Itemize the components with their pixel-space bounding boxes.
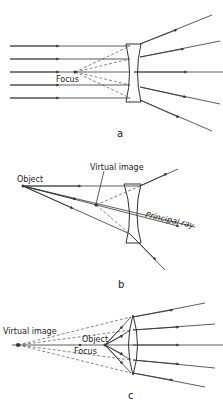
caption-a: a xyxy=(117,128,123,139)
focus-point xyxy=(79,344,81,346)
virtual-image-point xyxy=(16,343,20,347)
panel-b: Object Virtual image Principal ray b xyxy=(17,163,195,290)
panel-a: Focus a xyxy=(10,15,223,139)
virtual-image-label: Virtual image xyxy=(3,327,57,336)
panel-c: Virtual image Object Focus c xyxy=(3,303,223,401)
focus-label: Focus xyxy=(56,75,79,84)
principal-ray-label: Principal ray xyxy=(145,210,196,230)
object-point xyxy=(22,185,25,188)
caption-b: b xyxy=(118,279,124,290)
object-label: Object xyxy=(17,175,43,184)
concave-lens xyxy=(126,44,141,102)
focus-point xyxy=(74,71,77,74)
incoming-rays xyxy=(10,46,130,98)
focus-label: Focus xyxy=(74,347,97,356)
outgoing-rays xyxy=(134,15,223,131)
virtual-image-label: Virtual image xyxy=(90,163,144,172)
lens-diagram: Focus a Object Virtual image Principal r… xyxy=(0,0,223,407)
caption-c: c xyxy=(128,390,134,401)
object-label: Object xyxy=(82,335,108,344)
virtual-image-point xyxy=(95,204,98,207)
